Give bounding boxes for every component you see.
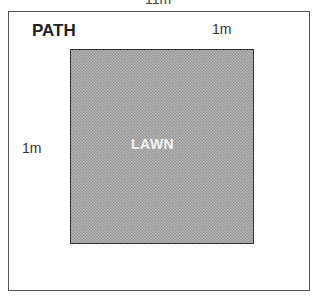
- top-dimension-label: 11m: [145, 0, 171, 7]
- path-width-top-label: 1m: [212, 21, 231, 37]
- path-label: PATH: [32, 21, 76, 41]
- lawn-label: LAWN: [131, 136, 174, 152]
- path-width-left-label: 1m: [22, 140, 41, 156]
